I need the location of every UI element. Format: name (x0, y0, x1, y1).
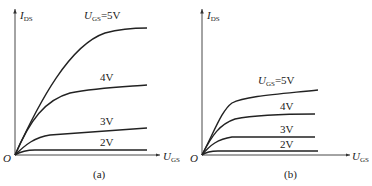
origin-label-b: O (190, 152, 198, 164)
curve-a-3v (15, 128, 147, 155)
caption-a: (a) (93, 168, 106, 181)
curve-label-a-2v: 2V (100, 136, 114, 148)
curve-b-2v (202, 151, 318, 155)
curve-label-a-3v: 3V (100, 115, 114, 127)
curve-label-b-2v: 2V (280, 138, 294, 150)
panel-b: IDS UGS O UGS=5V 4V 3V 2V (b) (190, 9, 369, 181)
curve-label-a-4v: 4V (100, 71, 114, 83)
x-axis-label-a: UGS (163, 150, 180, 164)
caption-b: (b) (284, 168, 297, 181)
y-axis-label-b: IDS (206, 9, 220, 23)
curve-a-2v (15, 150, 147, 155)
y-axis-label-a: IDS (19, 9, 33, 23)
curve-label-a-5v: UGS=5V (84, 9, 121, 23)
mosfet-characteristics-figure: IDS UGS O UGS=5V 4V 3V 2V (a) IDS UGS O … (0, 0, 372, 186)
curve-a-4v (15, 85, 147, 155)
curve-label-b-3v: 3V (280, 123, 294, 135)
curve-label-b-4v: 4V (280, 100, 294, 112)
curve-label-b-5v: UGS=5V (258, 74, 295, 88)
curve-b-5v (202, 90, 318, 155)
origin-label-a: O (3, 152, 11, 164)
curve-b-3v (202, 137, 315, 155)
panel-a: IDS UGS O UGS=5V 4V 3V 2V (a) (3, 9, 180, 181)
x-axis-label-b: UGS (352, 150, 369, 164)
